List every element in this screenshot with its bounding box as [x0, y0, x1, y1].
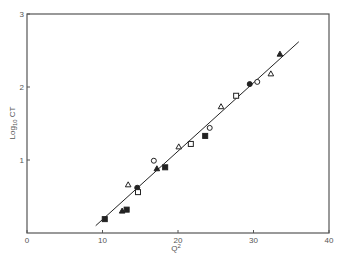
data-point-open-square	[135, 190, 140, 195]
data-point-open-square	[234, 93, 239, 98]
data-points	[102, 51, 282, 221]
data-point-open-triangle	[176, 144, 182, 149]
data-point-filled-square	[124, 207, 129, 212]
x-axis-title: Q2	[171, 243, 181, 253]
data-point-filled-triangle	[154, 166, 160, 171]
data-point-filled-square	[203, 133, 208, 138]
data-point-open-triangle	[218, 104, 224, 109]
regression-line	[96, 42, 299, 226]
y-tick-label: 3	[20, 10, 25, 19]
data-point-open-square	[188, 141, 193, 146]
x-tick-label: 0	[25, 236, 30, 245]
data-point-filled-circle	[247, 82, 252, 87]
y-tick-label: 2	[20, 83, 25, 92]
x-tick-label: 10	[98, 236, 107, 245]
plot-frame	[27, 14, 329, 233]
fit-line	[96, 42, 299, 226]
x-tick-label: 30	[249, 236, 258, 245]
data-point-open-circle	[255, 79, 260, 84]
plot-border	[27, 14, 329, 233]
scatter-chart: 010203040123 Q2 Log10 CT	[0, 0, 341, 260]
data-point-open-circle	[151, 158, 156, 163]
data-point-filled-triangle	[277, 51, 283, 56]
data-point-open-circle	[207, 125, 212, 130]
data-point-filled-square	[163, 165, 168, 170]
data-point-open-triangle	[268, 71, 274, 76]
x-tick-label: 40	[325, 236, 334, 245]
data-point-open-triangle	[125, 182, 131, 187]
data-point-filled-square	[102, 217, 107, 222]
axis-ticks: 010203040123	[20, 10, 334, 245]
y-axis-title: Log10 CT	[8, 106, 18, 139]
y-tick-label: 1	[20, 156, 25, 165]
